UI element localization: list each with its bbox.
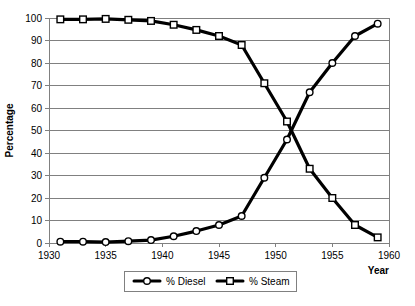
data-point-marker: [238, 42, 245, 49]
x-tick-label: 1930: [38, 250, 61, 261]
x-tick-label: 1945: [208, 250, 231, 261]
line-chart: 0102030405060708090100193019351940194519…: [0, 0, 415, 306]
y-axis-title: Percentage: [4, 103, 15, 157]
y-tick-label: 10: [31, 215, 43, 226]
y-tick-label: 0: [36, 238, 42, 249]
legend-item-label: % Diesel: [166, 276, 205, 287]
y-tick-label: 70: [31, 80, 43, 91]
data-point-marker: [57, 238, 64, 245]
x-tick-label: 1955: [321, 250, 344, 261]
data-point-marker: [352, 222, 359, 229]
data-point-marker: [238, 213, 245, 220]
data-point-marker: [352, 33, 359, 40]
y-tick-label: 30: [31, 170, 43, 181]
data-point-marker: [102, 16, 109, 23]
y-tick-label: 60: [31, 103, 43, 114]
data-point-marker: [193, 228, 200, 235]
data-point-marker: [125, 238, 132, 245]
square-marker-icon: [227, 278, 234, 285]
x-tick-label: 1935: [95, 250, 118, 261]
data-point-marker: [374, 234, 381, 241]
data-point-marker: [148, 237, 155, 244]
data-point-marker: [284, 136, 291, 143]
data-point-marker: [57, 16, 64, 23]
circle-marker-icon: [144, 278, 151, 285]
data-point-marker: [306, 165, 313, 172]
data-point-marker: [329, 195, 336, 202]
data-point-marker: [125, 17, 132, 24]
y-tick-label: 100: [25, 13, 42, 24]
x-tick-label: 1940: [151, 250, 174, 261]
y-tick-label: 40: [31, 148, 43, 159]
x-tick-label: 1950: [265, 250, 288, 261]
y-tick-label: 20: [31, 193, 43, 204]
data-point-marker: [170, 21, 177, 28]
y-tick-label: 90: [31, 35, 43, 46]
data-point-marker: [261, 80, 268, 87]
data-point-marker: [284, 118, 291, 125]
chart-canvas: 0102030405060708090100193019351940194519…: [0, 0, 415, 306]
data-point-marker: [148, 18, 155, 25]
legend-item-steam: % Steam: [217, 276, 290, 287]
data-point-marker: [216, 33, 223, 40]
data-point-marker: [102, 239, 109, 246]
data-point-marker: [329, 60, 336, 67]
data-point-marker: [261, 174, 268, 181]
y-tick-label: 50: [31, 125, 43, 136]
data-point-marker: [80, 238, 87, 245]
data-point-marker: [80, 16, 87, 23]
chart-legend: % Diesel% Steam: [124, 271, 296, 291]
data-point-marker: [216, 222, 223, 229]
legend-item-label: % Steam: [249, 276, 290, 287]
data-point-marker: [170, 233, 177, 240]
data-point-marker: [193, 27, 200, 34]
data-point-marker: [306, 89, 313, 96]
data-point-marker: [374, 20, 381, 27]
y-tick-label: 80: [31, 58, 43, 69]
x-tick-label: 1960: [378, 250, 401, 261]
x-axis-title: Year: [368, 265, 389, 276]
